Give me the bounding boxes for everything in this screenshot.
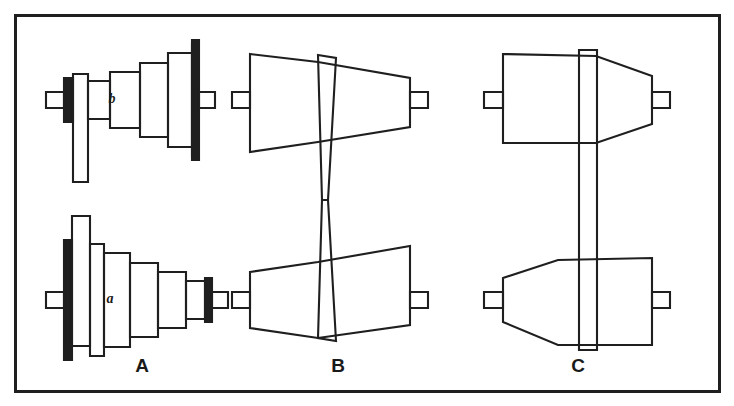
cone-pulley-figure: b a A B C bbox=[0, 0, 734, 406]
panel-label-c: C bbox=[571, 355, 585, 376]
pulley-large-flange bbox=[64, 240, 72, 360]
part-label-a: a bbox=[107, 291, 114, 306]
panel-label-a: A bbox=[135, 355, 149, 376]
pulley-small-flange bbox=[64, 78, 73, 122]
panel-label-b: B bbox=[331, 355, 345, 376]
figure-canvas: b a A B C bbox=[0, 0, 734, 406]
part-label-b: b bbox=[109, 91, 116, 106]
